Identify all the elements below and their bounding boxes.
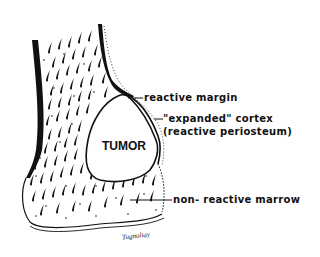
left-cortex <box>26 40 44 178</box>
right-cortex <box>98 24 134 98</box>
label-reactive-periosteum: (reactive periosteum) <box>163 126 292 137</box>
label-expanded-cortex: "expanded" cortex <box>163 113 273 124</box>
bone-bottom-outline <box>23 178 162 228</box>
label-reactive-margin: reactive margin <box>144 92 238 103</box>
label-non-reactive-marrow: non- reactive marrow <box>173 194 300 205</box>
tumor-label: TUMOR <box>102 139 146 153</box>
